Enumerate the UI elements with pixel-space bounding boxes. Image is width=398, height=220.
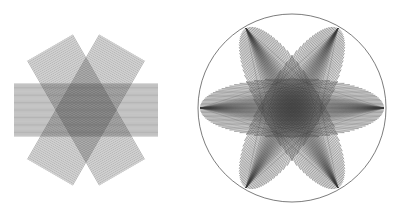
line-art-figure-canvas — [0, 0, 398, 220]
figure-container — [0, 0, 398, 220]
